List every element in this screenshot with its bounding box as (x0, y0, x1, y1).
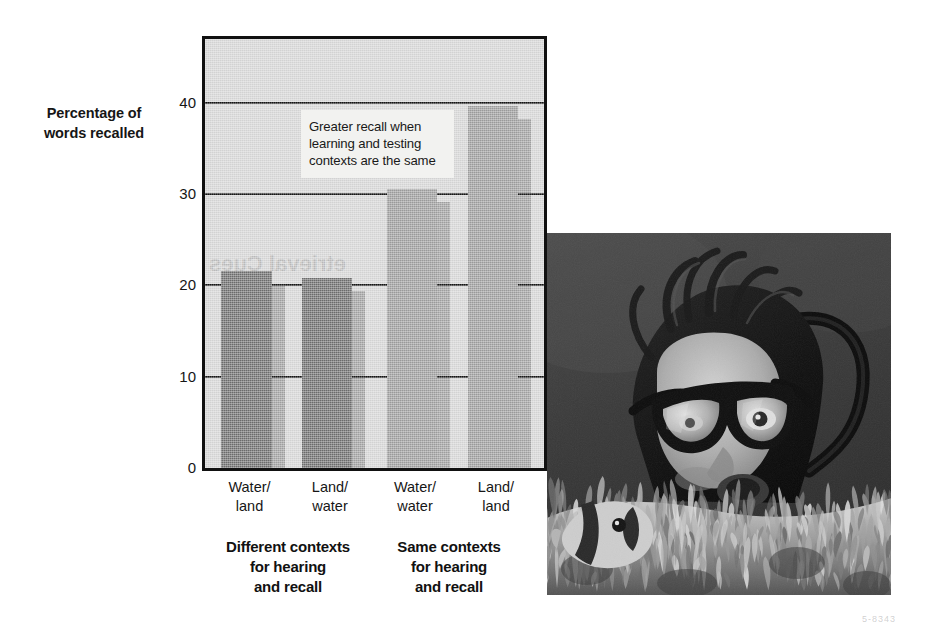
x-tick-label-land-water: Land/water (284, 478, 376, 516)
x-tick-line-2: water (284, 497, 376, 516)
x-tick-line-1: Water/ (369, 478, 461, 497)
diver-photo-svg (547, 233, 891, 595)
x-tick-line-2: land (204, 497, 296, 516)
x-tick-line-1: Water/ (204, 478, 296, 497)
group-label-line-3: and recall (349, 577, 549, 597)
group-label-same-contexts: Same contextsfor hearingand recall (349, 537, 549, 596)
y-tick-label-0: 0 (154, 460, 196, 475)
y-axis-title: Percentage of words recalled (24, 104, 164, 143)
x-tick-label-land-land: Land/land (450, 478, 542, 516)
y-tick-label-20: 20 (154, 277, 196, 292)
bar-fill (387, 189, 437, 468)
diver-photograph (547, 233, 891, 595)
bar-land-land (468, 106, 518, 468)
annotation-line-1: Greater recall when (309, 118, 447, 135)
y-axis-title-line-1: Percentage of (24, 104, 164, 124)
bar-fill (302, 278, 352, 468)
annotation-line-2: learning and testing (309, 135, 447, 152)
page-bleed-text: 5-8343 (862, 614, 896, 624)
bar-fill (468, 106, 518, 468)
bar-land-water (302, 278, 352, 468)
x-tick-label-water-water: Water/water (369, 478, 461, 516)
bar-fill (221, 271, 272, 468)
annotation-line-3: contexts are the same (309, 152, 447, 169)
x-tick-line-2: land (450, 497, 542, 516)
x-tick-line-1: Land/ (450, 478, 542, 497)
y-tick-label-30: 30 (154, 186, 196, 201)
plot-inner: etrieval Cues (205, 39, 544, 468)
x-tick-line-2: water (369, 497, 461, 516)
recall-by-context-figure: Percentage of words recalled 010203040 e… (0, 0, 936, 644)
plot-area: etrieval Cues (202, 36, 547, 471)
y-axis-title-line-2: words recalled (24, 124, 164, 144)
y-tick-label-10: 10 (154, 369, 196, 384)
group-label-line-1: Same contexts (349, 537, 549, 557)
x-tick-line-1: Land/ (284, 478, 376, 497)
bar-water-land (221, 271, 272, 468)
bar-water-water (387, 189, 437, 468)
group-label-line-2: for hearing (349, 557, 549, 577)
x-tick-label-water-land: Water/land (204, 478, 296, 516)
y-tick-label-40: 40 (154, 95, 196, 110)
gridline-40 (205, 102, 544, 104)
annotation-callout: Greater recall when learning and testing… (301, 110, 454, 178)
